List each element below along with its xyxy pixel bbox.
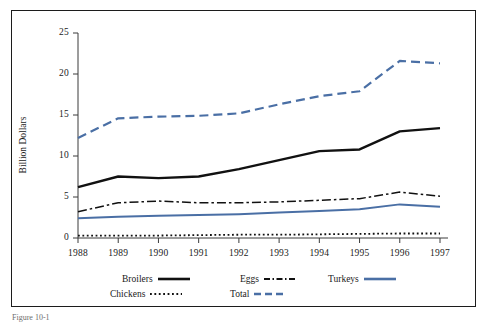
x-tick-label: 1988 [55,248,101,258]
legend-swatch-dashdot-black [263,274,297,284]
legend-item-total[interactable]: Total [230,287,287,301]
x-tick-label: 1994 [296,248,342,258]
legend-item-label: Turkeys [328,274,359,284]
chart-legend: BroilersEggsTurkeysChickensTotal [100,272,410,302]
legend-item-turkeys[interactable]: Turkeys [328,272,397,286]
legend-item-label: Total [230,289,249,299]
x-tick-label: 1993 [256,248,302,258]
y-tick-label: 25 [0,27,69,37]
x-tick-label: 1992 [216,248,262,258]
x-tick-label: 1990 [135,248,181,258]
y-tick-label: 20 [0,68,69,78]
x-tick-label: 1996 [377,248,423,258]
legend-swatch-dotted-black [149,289,183,299]
x-tick-label: 1991 [176,248,222,258]
legend-item-label: Eggs [240,274,259,284]
y-tick-label: 5 [0,191,69,201]
x-tick-label: 1989 [95,248,141,258]
figure-caption: Figure 10-1 [12,313,132,323]
x-tick-label: 1995 [337,248,383,258]
figure-caption-text: Figure 10-1 [12,313,132,323]
figure-root: Billion Dollars 0510152025 1988198919901… [0,0,488,323]
x-tick-label: 1997 [417,248,463,258]
legend-swatch-dashed-blue [253,289,287,299]
legend-item-label: Chickens [110,289,145,299]
legend-swatch-solid-blue [363,274,397,284]
y-tick-label: 15 [0,109,69,119]
legend-item-eggs[interactable]: Eggs [240,272,297,286]
legend-item-label: Broilers [122,274,153,284]
chart-frame-border [11,10,476,307]
legend-item-chickens[interactable]: Chickens [110,287,183,301]
y-tick-label: 10 [0,150,69,160]
y-tick-label: 0 [0,232,69,242]
legend-row: ChickensTotal [100,287,410,301]
legend-row: BroilersEggsTurkeys [100,272,410,286]
legend-item-broilers[interactable]: Broilers [122,272,191,286]
legend-swatch-solid-black [157,274,191,284]
